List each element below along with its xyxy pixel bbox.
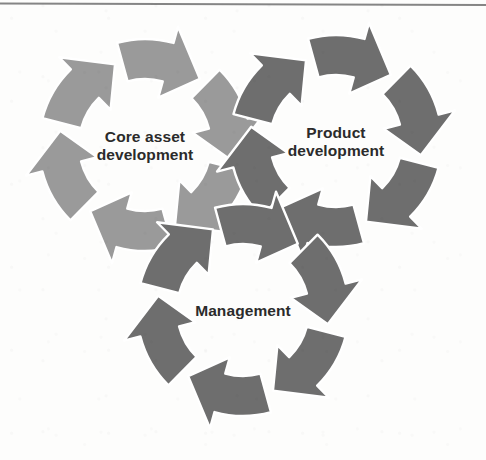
three-cycle-diagram: Core assetdevelopmentProductdevelopmentM… [0, 0, 486, 460]
cycle-label-line: development [288, 142, 385, 159]
cycle-label-management: Management [195, 302, 291, 319]
cycle-label-line: Management [195, 302, 291, 319]
cycle-label-line: development [97, 146, 194, 163]
cycle-label-line: Product [306, 124, 365, 141]
cycle-label-core-asset-development: Core assetdevelopment [97, 128, 194, 163]
cycle-label-line: Core asset [105, 128, 185, 145]
scan-line-artifact [0, 4, 486, 6]
